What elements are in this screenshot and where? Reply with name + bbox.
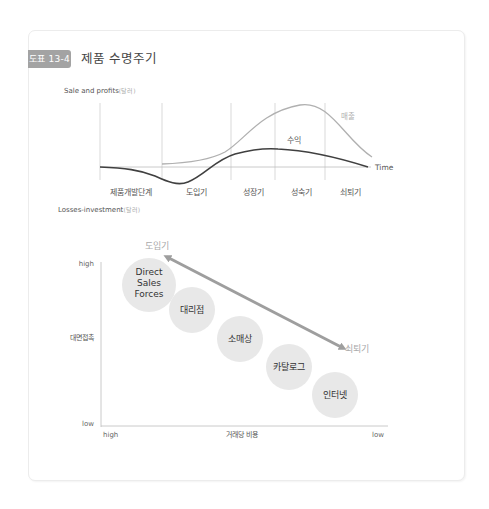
lifecycle-chart: Sale and profits(달러) Time 매출 수익 제품개발단계 도… [58, 87, 394, 214]
channel-label: Direct [136, 267, 163, 277]
y-axis-low: low [82, 420, 94, 428]
stage-label: 성장기 [243, 187, 264, 197]
profit-curve [100, 149, 368, 184]
arrow-end-label: 쇠퇴기 [345, 344, 369, 354]
arrow-start-label: 도입기 [145, 240, 169, 251]
stage-label: 쇠퇴기 [340, 188, 361, 197]
profit-curve-label: 수익 [287, 135, 301, 145]
y-axis-high: high [79, 260, 94, 268]
time-axis-label: Time [374, 163, 394, 172]
channel-label: 소매상 [228, 334, 252, 344]
channel-label: Sales [137, 278, 161, 288]
y-label-bottom: Losses-investment(달러) [58, 206, 140, 214]
diagram-canvas: Sale and profits(달러) Time 매출 수익 제품개발단계 도… [0, 0, 489, 509]
y-label-top: Sale and profits(달러) [64, 87, 136, 95]
y-axis-title: 대면접촉 [70, 333, 95, 342]
channel-label: 대리점 [180, 304, 204, 315]
channel-chart: high 대면접촉 low high 거래당 비용 low Direct Sal… [70, 240, 388, 439]
sales-curve-label: 매출 [341, 111, 355, 121]
channel-label: 카탈로그 [273, 362, 305, 372]
stage-label: 제품개발단계 [110, 187, 152, 197]
channel-label: 인터넷 [323, 390, 347, 400]
x-axis-high: high [103, 431, 118, 439]
stage-label: 성숙기 [291, 188, 312, 197]
x-axis-title: 거래당 비용 [226, 430, 259, 439]
x-axis-low: low [372, 431, 384, 439]
channel-label: Forces [134, 289, 163, 299]
stage-label: 도입기 [186, 188, 207, 197]
